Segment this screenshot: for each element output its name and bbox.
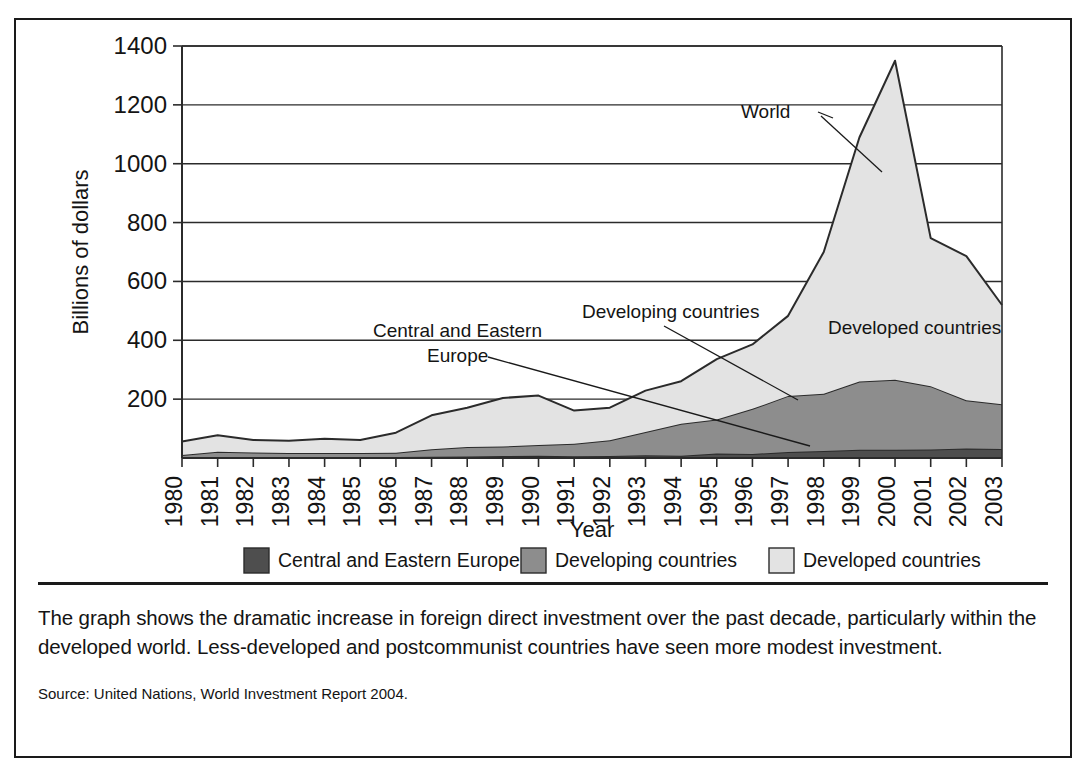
x-tick-label: 2000 — [874, 476, 900, 527]
stacked-area-chart: 200400600800100012001400 198019811982198… — [16, 20, 1070, 580]
legend-label: Developing countries — [555, 549, 737, 571]
x-tick-label: 1986 — [375, 476, 401, 527]
annotation-developed-countries-label: Developed countries — [828, 317, 1001, 338]
annotation-developing-countries-label: Developing countries — [582, 301, 759, 322]
x-tick-label: 1989 — [482, 476, 508, 527]
x-tick-label: 1990 — [518, 476, 544, 527]
chart-region: 200400600800100012001400 198019811982198… — [16, 20, 1070, 580]
x-tick-label: 1980 — [161, 476, 187, 527]
caption-divider — [38, 582, 1048, 585]
x-tick-label: 1995 — [696, 476, 722, 527]
y-tick-label: 400 — [127, 326, 167, 353]
y-axis-title: Billions of dollars — [68, 169, 93, 334]
annotation-developed-countries: Developed countries — [828, 317, 1001, 338]
x-tick-label: 1994 — [660, 476, 686, 527]
y-tick-label: 200 — [127, 385, 167, 412]
x-tick-label: 1997 — [767, 476, 793, 527]
y-tick-label: 1200 — [114, 91, 167, 118]
legend-swatch — [244, 548, 269, 573]
annotation-central-eastern-europe-label-line2: Europe — [427, 345, 488, 366]
x-tick-label: 1988 — [446, 476, 472, 527]
x-tick-label: 1981 — [197, 476, 223, 527]
y-tick-label: 1000 — [114, 150, 167, 177]
chart-legend: Central and Eastern EuropeDeveloping cou… — [244, 548, 981, 573]
x-tick-label: 1983 — [268, 476, 294, 527]
legend-label: Developed countries — [803, 549, 981, 571]
caption-text: The graph shows the dramatic increase in… — [38, 603, 1038, 661]
legend-label: Central and Eastern Europe — [278, 549, 520, 571]
x-tick-label: 2002 — [945, 476, 971, 527]
figure-frame: 200400600800100012001400 198019811982198… — [14, 18, 1072, 758]
y-tick-label: 600 — [127, 267, 167, 294]
y-tick-label: 800 — [127, 209, 167, 236]
annotation-world-label: World — [741, 101, 790, 122]
y-tick-label: 1400 — [114, 32, 167, 59]
legend-swatch — [521, 548, 546, 573]
x-tick-label: 1996 — [731, 476, 757, 527]
x-tick-label: 1987 — [411, 476, 437, 527]
x-tick-label: 1984 — [304, 476, 330, 527]
x-tick-label: 2001 — [910, 476, 936, 527]
x-tick-label: 1999 — [838, 476, 864, 527]
annotation-central-eastern-europe-label-line1: Central and Eastern — [373, 320, 542, 341]
legend-swatch — [769, 548, 794, 573]
x-tick-label: 1993 — [624, 476, 650, 527]
caption-source: Source: United Nations, World Investment… — [38, 683, 1048, 704]
x-tick-label: 2003 — [981, 476, 1007, 527]
x-tick-label: 1982 — [232, 476, 258, 527]
x-tick-label: 1985 — [339, 476, 365, 527]
caption-region: The graph shows the dramatic increase in… — [16, 582, 1070, 704]
x-axis-title: Year — [570, 517, 614, 542]
x-tick-label: 1998 — [803, 476, 829, 527]
